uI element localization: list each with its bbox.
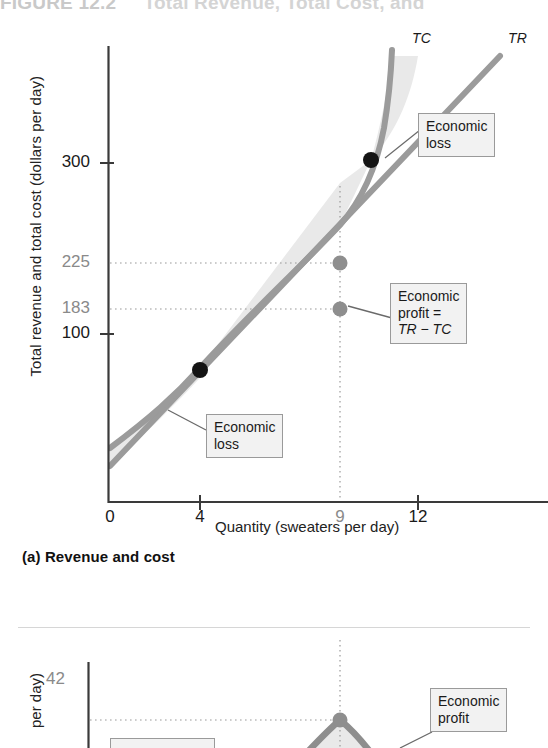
panel-divider [18, 627, 530, 628]
figure-title-text: Total Revenue, Total Cost, and [144, 0, 425, 13]
callout-profit-line1: Economic [398, 288, 459, 305]
callout-economic-loss-upper: Economic loss [418, 113, 495, 157]
guide-lines-b [90, 640, 340, 748]
callout-profit-b-line2: profit [438, 710, 499, 727]
callout-economic-profit: Economic profit = TR − TC [390, 283, 467, 344]
y-tick-42: 42 [0, 669, 65, 689]
leader-lines-a [168, 130, 420, 430]
marker-max-profit [333, 713, 348, 728]
panel-economic-profit: per day) 42 Economic profit [0, 640, 548, 748]
callout-profit-line2: profit = [398, 305, 459, 322]
x-axis-label-a: Quantity (sweaters per day) [215, 518, 545, 535]
panel-revenue-and-cost: Total revenue and total cost (dollars pe… [0, 18, 548, 538]
callout-partial-bottom [110, 738, 215, 748]
curve-total-cost [110, 50, 392, 448]
callout-profit-line3: TR − TC [398, 321, 451, 337]
callout-loss-lower-line2: loss [214, 436, 275, 453]
x-tick-9: 9 [320, 507, 360, 527]
y-axis-label-b: per day) [27, 640, 44, 748]
callout-loss-lower-line1: Economic [214, 419, 275, 436]
marker-breakeven-q4 [192, 362, 208, 378]
callout-loss-upper-line1: Economic [426, 118, 487, 135]
curve-label-tc: TC [412, 30, 431, 46]
callout-profit-b-line1: Economic [438, 693, 499, 710]
callout-loss-upper-line2: loss [426, 135, 487, 152]
y-tick-183: 183 [20, 298, 90, 318]
x-tick-0: 0 [90, 507, 130, 527]
x-tick-12: 12 [398, 507, 438, 527]
region-profit-area [200, 720, 440, 748]
chart-revenue-cost [0, 18, 548, 538]
x-tick-4: 4 [180, 507, 220, 527]
figure-title: FIGURE 12.2 Total Revenue, Total Cost, a… [0, 0, 548, 18]
panel-a-subtitle: (a) Revenue and cost [22, 548, 175, 565]
marker-breakeven-q12 [363, 152, 379, 168]
callout-economic-loss-lower: Economic loss [206, 414, 283, 458]
y-tick-300: 300 [20, 152, 90, 172]
curve-label-tr: TR [508, 30, 527, 46]
y-tick-225: 225 [20, 252, 90, 272]
callout-economic-profit-b: Economic profit [430, 688, 507, 732]
marker-tc-q9 [333, 302, 348, 317]
marker-tr-q9 [333, 256, 348, 271]
figure-number: FIGURE 12.2 [0, 0, 116, 13]
y-tick-100: 100 [20, 323, 90, 343]
leader-line-b [400, 732, 432, 748]
